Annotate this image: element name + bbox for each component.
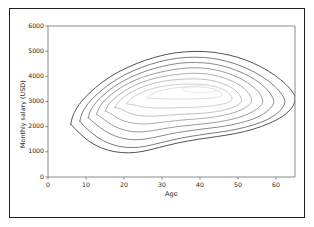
plot-axes — [45, 26, 295, 180]
y-tick-label-6000: 6000 — [12, 23, 44, 29]
y-tick-label-2000: 2000 — [12, 123, 44, 129]
x-tick-label-30: 30 — [150, 182, 174, 188]
x-tick-label-50: 50 — [226, 182, 250, 188]
y-tick-label-0: 0 — [12, 174, 44, 180]
contour-level-3 — [96, 68, 263, 132]
y-tick-label-1000: 1000 — [12, 148, 44, 154]
y-axis-label: Monthly salary (USD) — [20, 80, 26, 148]
y-tick-label-4000: 4000 — [12, 73, 44, 79]
contour-lines-group — [70, 51, 295, 152]
contour-level-7 — [147, 87, 223, 99]
x-tick-label-20: 20 — [112, 182, 136, 188]
x-tick-label-60: 60 — [264, 182, 288, 188]
x-tick-label-10: 10 — [74, 182, 98, 188]
figure-border: 0100020003000400050006000 0102030405060 … — [9, 8, 305, 218]
y-tick-label-5000: 5000 — [12, 48, 44, 54]
x-tick-label-40: 40 — [188, 182, 212, 188]
y-tick-label-3000: 3000 — [12, 98, 44, 104]
x-tick-label-0: 0 — [36, 182, 60, 188]
chart-figure: 0100020003000400050006000 0102030405060 … — [0, 0, 314, 227]
x-axis-label: Age — [132, 191, 212, 198]
